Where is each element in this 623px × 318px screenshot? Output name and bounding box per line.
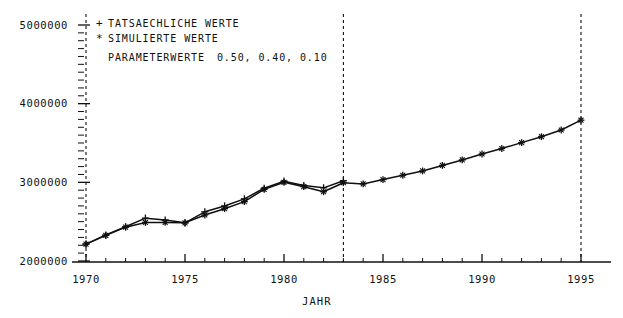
data-point-marker [300, 183, 307, 190]
data-point-marker [518, 139, 525, 146]
x-tick-label-1995: 1995 [551, 273, 611, 285]
legend-label-actual: TATSAECHLICHE WERTE [108, 16, 240, 31]
chart-figure: 5000000 4000000 3000000 2000000 1970 197… [0, 0, 623, 318]
x-axis-title: JAHR [302, 295, 332, 307]
parameters-label: PARAMETERWERTE [108, 50, 205, 65]
parameters-values: 0.50, 0.40, 0.10 [217, 50, 328, 65]
data-point-marker [122, 224, 129, 231]
x-tick-label-1970: 1970 [56, 273, 116, 285]
data-point-marker [538, 133, 545, 140]
star-marker-icon: * [96, 31, 108, 46]
chart-legend: + TATSAECHLICHE WERTE * SIMULIERTE WERTE… [96, 16, 328, 65]
data-point-marker [241, 198, 248, 205]
legend-entry-actual: + TATSAECHLICHE WERTE [96, 16, 328, 31]
legend-entry-simulated: * SIMULIERTE WERTE [96, 31, 328, 46]
data-point-marker [182, 219, 189, 226]
data-point-marker [399, 172, 406, 179]
legend-entry-parameters: PARAMETERWERTE 0.50, 0.40, 0.10 [96, 50, 328, 65]
y-axis-ticks [78, 25, 90, 261]
x-axis-ticks [86, 254, 581, 262]
data-point-marker [221, 205, 228, 212]
data-point-marker [479, 151, 486, 158]
data-point-marker [261, 186, 268, 193]
data-point-marker [340, 179, 347, 186]
data-point-marker [201, 212, 208, 219]
data-series-group [82, 117, 584, 248]
y-tick-label-3000000: 3000000 [2, 176, 68, 188]
data-point-marker [558, 127, 565, 134]
data-point-marker [83, 241, 90, 248]
data-point-marker [498, 145, 505, 152]
data-point-marker [419, 168, 426, 175]
series-simulated [83, 117, 585, 248]
data-point-marker [578, 117, 585, 124]
data-point-marker [142, 219, 149, 226]
data-point-marker [360, 181, 367, 188]
x-tick-label-1975: 1975 [155, 273, 215, 285]
plus-marker-icon: + [96, 16, 108, 31]
x-tick-label-1990: 1990 [452, 273, 512, 285]
x-tick-label-1985: 1985 [353, 273, 413, 285]
data-point-marker [320, 188, 327, 195]
data-point-marker [102, 232, 109, 239]
y-tick-label-2000000: 2000000 [2, 255, 68, 267]
data-point-marker [380, 176, 387, 183]
series-line [86, 120, 581, 244]
y-tick-label-5000000: 5000000 [2, 19, 68, 31]
legend-label-simulated: SIMULIERTE WERTE [108, 31, 219, 46]
data-point-marker [459, 157, 466, 164]
data-point-marker [162, 219, 169, 226]
data-point-marker [281, 179, 288, 186]
data-point-marker [439, 162, 446, 169]
x-tick-label-1980: 1980 [254, 273, 314, 285]
y-tick-label-4000000: 4000000 [2, 97, 68, 109]
